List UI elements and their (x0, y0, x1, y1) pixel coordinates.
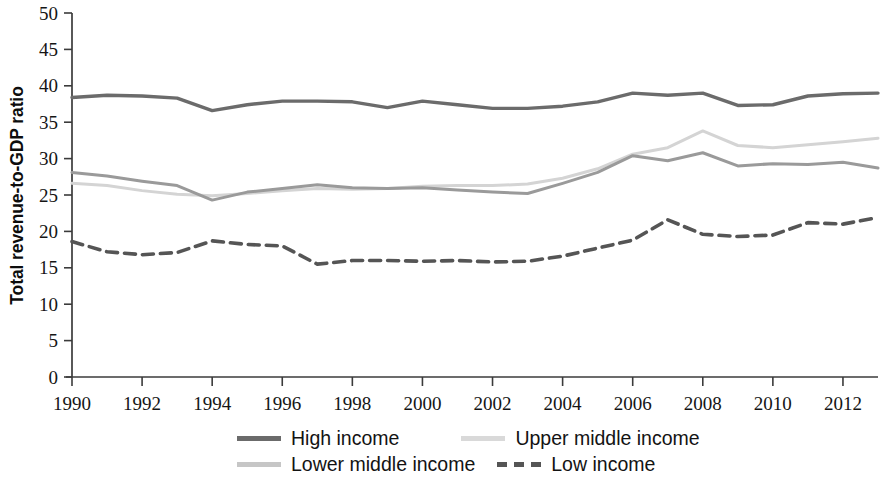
x-tick-label: 1992 (123, 393, 161, 414)
x-tick-label: 2002 (474, 393, 512, 414)
x-tick-label: 2000 (403, 393, 441, 414)
legend-label-low-income: Low income (551, 453, 655, 476)
y-tick-label: 5 (49, 330, 59, 351)
series-lines (72, 93, 878, 264)
legend-item-lower-middle-income[interactable]: Lower middle income (237, 453, 475, 476)
y-tick-label: 0 (49, 367, 59, 388)
x-tick-label: 2010 (754, 393, 792, 414)
x-tick-label: 1994 (193, 393, 232, 414)
line-chart-plot: 05101520253035404550 1990199219941996199… (0, 0, 881, 420)
y-tick-label: 50 (39, 3, 58, 24)
x-tick-label: 1998 (333, 393, 371, 414)
legend-item-high-income[interactable]: High income (237, 427, 399, 450)
series-line-lower-middle-income (72, 153, 878, 200)
y-tick-label: 40 (39, 75, 58, 96)
y-tick-label: 15 (39, 257, 58, 278)
y-tick-label: 10 (39, 294, 58, 315)
x-tick-label: 2004 (544, 393, 583, 414)
legend-swatch-upper-middle-income (461, 436, 505, 441)
legend-item-low-income[interactable]: Low income (497, 453, 655, 476)
x-tick-label: 1996 (263, 393, 301, 414)
x-tick-label: 2006 (614, 393, 652, 414)
x-tick-label: 2008 (684, 393, 722, 414)
chart-legend: High income Upper middle income Lower mi… (0, 425, 881, 484)
y-tick-label: 30 (39, 148, 58, 169)
x-tick-label: 1990 (53, 393, 91, 414)
chart-container: Total revenue-to-GDP ratio 0510152025303… (0, 0, 881, 484)
y-tick-label: 45 (39, 39, 58, 60)
legend-label-lower-middle-income: Lower middle income (291, 453, 475, 476)
legend-row-1: High income Upper middle income (237, 427, 700, 450)
y-axis-ticks: 05101520253035404550 (39, 3, 72, 388)
series-line-high-income (72, 93, 878, 110)
legend-item-upper-middle-income[interactable]: Upper middle income (461, 427, 699, 450)
y-tick-label: 35 (39, 112, 58, 133)
y-tick-label: 20 (39, 221, 58, 242)
legend-row-2: Lower middle income Low income (237, 453, 655, 476)
legend-label-upper-middle-income: Upper middle income (515, 427, 699, 450)
legend-swatch-low-income (497, 462, 541, 467)
legend-swatch-high-income (237, 436, 281, 441)
y-tick-label: 25 (39, 185, 58, 206)
legend-label-high-income: High income (291, 427, 399, 450)
series-line-low-income (72, 218, 878, 265)
x-axis-ticks: 1990199219941996199820002002200420062008… (53, 377, 862, 414)
legend-swatch-lower-middle-income (237, 462, 281, 467)
x-tick-label: 2012 (824, 393, 862, 414)
